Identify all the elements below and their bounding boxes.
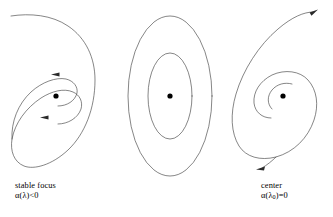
phase-portrait-figure: stable focus α(λ)<0 center α(λ0)=0 [0, 0, 333, 217]
panel-center: center α(λ0)=0 [113, 0, 226, 217]
panel-unstable-focus: unstable focus α(λ)>0 [226, 0, 333, 217]
caption-formula-stable: α(λ)<0 [15, 191, 56, 201]
panel-stable-focus: stable focus α(λ)<0 [0, 0, 120, 217]
outward-spiral-inner-path [268, 83, 292, 109]
equilibrium-point-dot [280, 93, 285, 98]
unstable-focus-diagram [226, 0, 333, 180]
outward-spiral-path [232, 12, 317, 159]
equilibrium-point-dot [167, 93, 172, 98]
formula-suffix-stable: )<0 [27, 191, 39, 200]
inward-spiral-path [11, 15, 95, 168]
equilibrium-point-dot [53, 93, 58, 98]
caption-stable-focus: stable focus α(λ)<0 [15, 181, 56, 202]
caption-title-stable: stable focus [15, 181, 56, 191]
center-diagram [113, 0, 226, 180]
inward-spiral-inner-path [12, 79, 77, 139]
flow-arrow-upper-icon [51, 73, 60, 77]
flow-arrow-lower-icon [40, 116, 49, 120]
stable-focus-diagram [0, 0, 120, 180]
flow-arrow-top-icon [310, 10, 319, 16]
